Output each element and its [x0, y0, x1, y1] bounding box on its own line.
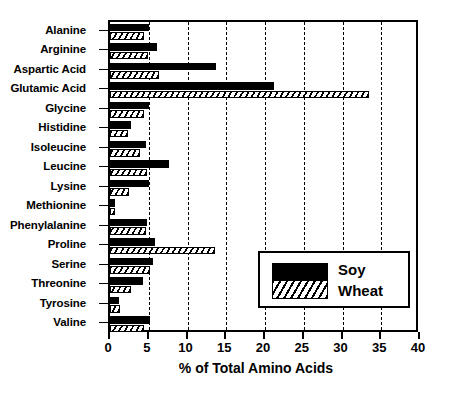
legend-swatch-wheat [273, 281, 327, 298]
bar-wheat [110, 52, 148, 60]
x-tick [147, 332, 149, 339]
bar-soy [110, 277, 143, 285]
legend-label-soy: Soy [338, 259, 383, 280]
category-tick [99, 69, 108, 70]
bar-wheat [110, 227, 146, 235]
category-label-proline: Proline [0, 238, 86, 250]
bar-soy [110, 219, 147, 227]
category-label-glutamic-acid: Glutamic Acid [0, 82, 86, 94]
x-axis-label: % of Total Amino Acids [0, 360, 452, 376]
category-tick [99, 127, 108, 128]
x-tick [302, 332, 304, 339]
x-tick [224, 332, 226, 339]
category-tick [99, 108, 108, 109]
category-tick [99, 225, 108, 226]
bar-soy [110, 180, 149, 188]
bar-soy [110, 82, 274, 90]
legend-swatch-soy [273, 264, 327, 281]
category-label-serine: Serine [0, 258, 86, 270]
bar-soy [110, 102, 149, 110]
category-tick [99, 166, 108, 167]
bar-soy [110, 160, 169, 168]
category-tick [99, 244, 108, 245]
bar-wheat [110, 91, 369, 99]
bar-soy [110, 316, 150, 324]
bar-wheat [110, 266, 150, 274]
category-tick [99, 303, 108, 304]
category-tick [99, 264, 108, 265]
category-tick [99, 205, 108, 206]
category-tick [99, 186, 108, 187]
category-label-isoleucine: Isoleucine [0, 141, 86, 153]
bar-wheat [110, 188, 129, 196]
bar-wheat [110, 208, 115, 216]
x-tick [186, 332, 188, 339]
bar-wheat [110, 305, 120, 313]
x-tick [379, 332, 381, 339]
bar-wheat [110, 110, 144, 118]
category-label-aspartic-acid: Aspartic Acid [0, 63, 86, 75]
category-label-glycine: Glycine [0, 102, 86, 114]
category-label-threonine: Threonine [0, 277, 86, 289]
category-label-histidine: Histidine [0, 121, 86, 133]
bar-wheat [110, 169, 147, 177]
bar-wheat [110, 130, 128, 138]
x-tick-label: 5 [127, 340, 167, 355]
category-tick [99, 88, 108, 89]
category-tick [99, 283, 108, 284]
x-tick-label: 15 [204, 340, 244, 355]
chart-legend: Soy Wheat [258, 251, 410, 308]
x-tick-label: 10 [166, 340, 206, 355]
category-label-valine: Valine [0, 316, 86, 328]
bar-wheat [110, 247, 215, 255]
x-tick-label: 40 [398, 340, 438, 355]
category-label-lysine: Lysine [0, 180, 86, 192]
category-tick [99, 322, 108, 323]
bar-soy [110, 121, 131, 129]
category-label-leucine: Leucine [0, 160, 86, 172]
amino-acid-bar-chart: AlanineArginineAspartic AcidGlutamic Aci… [0, 0, 452, 401]
bar-soy [110, 63, 216, 71]
category-label-phenylalanine: Phenylalanine [0, 219, 86, 231]
bar-wheat [110, 325, 144, 333]
bar-soy [110, 258, 153, 266]
category-axis: AlanineArginineAspartic AcidGlutamic Aci… [0, 20, 100, 332]
bar-soy [110, 24, 149, 32]
bar-soy [110, 199, 115, 207]
bar-wheat [110, 32, 144, 40]
legend-labels: Soy Wheat [338, 259, 383, 301]
x-tick-label: 20 [243, 340, 283, 355]
bar-soy [110, 297, 119, 305]
bar-wheat [110, 149, 140, 157]
category-label-tyrosine: Tyrosine [0, 297, 86, 309]
x-tick-label: 25 [282, 340, 322, 355]
category-tick [99, 30, 108, 31]
category-tick [99, 147, 108, 148]
x-tick-label: 0 [88, 340, 128, 355]
x-tick-label: 35 [359, 340, 399, 355]
x-axis-tick-labels: 0510152025303540 [0, 340, 452, 358]
category-label-alanine: Alanine [0, 24, 86, 36]
x-tick [341, 332, 343, 339]
x-tick [108, 332, 110, 339]
bar-soy [110, 43, 157, 51]
bar-wheat [110, 71, 159, 79]
bar-wheat [110, 286, 131, 294]
x-tick-label: 30 [321, 340, 361, 355]
legend-swatch-group [272, 263, 328, 299]
bar-soy [110, 141, 146, 149]
category-tick [99, 49, 108, 50]
category-label-arginine: Arginine [0, 43, 86, 55]
legend-label-wheat: Wheat [338, 280, 383, 301]
x-tick [418, 332, 420, 339]
bar-soy [110, 238, 155, 246]
gridline [226, 22, 227, 330]
x-tick [263, 332, 265, 339]
category-label-methionine: Methionine [0, 199, 86, 211]
